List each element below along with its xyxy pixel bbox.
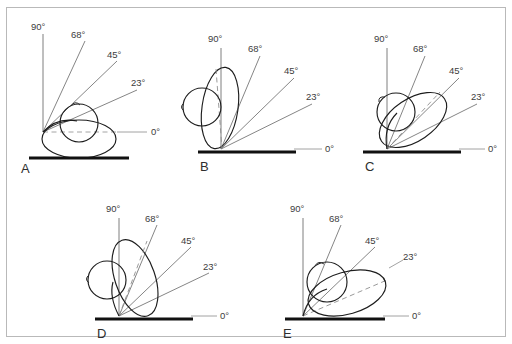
label-68-c: 68° <box>413 43 428 54</box>
label-45-e: 45° <box>365 235 380 246</box>
label-68-a: 68° <box>71 29 86 40</box>
ray-23-c <box>387 104 477 149</box>
ray-23-leader-e <box>389 260 403 268</box>
body-outline-a <box>42 120 116 158</box>
body-outline-e <box>303 262 391 324</box>
ray-45-d <box>119 247 191 316</box>
label-90-c: 90° <box>374 33 389 44</box>
ray-45-a <box>43 61 117 132</box>
label-90-d: 90° <box>106 203 121 214</box>
panel-b-drawing: 90° 68° 45° 23° 0° B <box>172 8 347 173</box>
label-23-e: 23° <box>403 251 418 262</box>
label-45-a: 45° <box>107 49 122 60</box>
label-23-a: 23° <box>131 77 146 88</box>
head-outline-c <box>377 93 415 131</box>
head-outline-a <box>60 104 98 142</box>
label-0-a: 0° <box>151 126 160 137</box>
panel-d: 90° 68° 45° 23° 0° D <box>69 190 254 340</box>
figure-frame: 90° 68° 45° 23° 0° A 90° 68° 45° 23° <box>6 7 506 337</box>
label-23-d: 23° <box>203 261 218 272</box>
label-90-b: 90° <box>208 33 223 44</box>
panel-b: 90° 68° 45° 23° 0° B <box>172 8 347 173</box>
ray-45-b <box>221 78 294 149</box>
ray-68-a <box>43 41 85 132</box>
contact-arc-d <box>112 282 119 316</box>
label-68-e: 68° <box>329 213 344 224</box>
label-0-e: 0° <box>412 310 421 321</box>
label-0-c: 0° <box>488 143 497 154</box>
head-outline-e <box>307 262 347 302</box>
label-45-b: 45° <box>284 65 299 76</box>
panel-d-drawing: 90° 68° 45° 23° 0° D <box>69 190 254 340</box>
label-90-a: 90° <box>31 21 46 32</box>
label-23-c: 23° <box>471 91 486 102</box>
panel-e: 90° 68° 45° 23° 0° E <box>263 190 448 340</box>
head-outline-d <box>88 261 126 299</box>
panel-letter-c: C <box>365 159 374 174</box>
panel-a-drawing: 90° 68° 45° 23° 0° A <box>7 8 187 173</box>
panel-c-drawing: 90° 68° 45° 23° 0° C <box>337 8 509 173</box>
ray-68-c <box>387 56 425 149</box>
ray-68-b <box>221 56 260 149</box>
panel-c: 90° 68° 45° 23° 0° C <box>337 8 509 173</box>
body-outline-b <box>196 65 243 151</box>
panel-a: 90° 68° 45° 23° 0° A <box>7 8 187 173</box>
panel-letter-e: E <box>283 326 292 341</box>
panel-letter-a: A <box>21 161 30 176</box>
label-0-b: 0° <box>325 143 334 154</box>
panel-letter-b: B <box>200 159 209 174</box>
panel-letter-d: D <box>97 326 106 341</box>
ray-23-a <box>43 90 137 132</box>
panel-e-drawing: 90° 68° 45° 23° 0° E <box>263 190 448 340</box>
label-68-b: 68° <box>248 43 263 54</box>
ray-45-e <box>303 247 375 316</box>
label-45-c: 45° <box>449 65 464 76</box>
label-45-d: 45° <box>181 235 196 246</box>
label-0-d: 0° <box>220 310 229 321</box>
label-23-b: 23° <box>306 91 321 102</box>
label-90-e: 90° <box>290 203 305 214</box>
label-68-d: 68° <box>145 213 160 224</box>
